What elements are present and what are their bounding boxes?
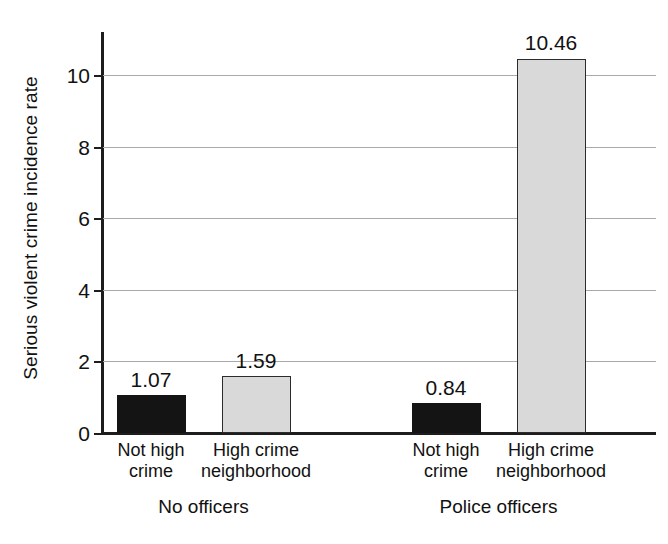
tick-mark	[94, 218, 103, 220]
x-axis-category-label: High crimeneighborhood	[201, 440, 311, 482]
category-label-line1: High crime	[201, 440, 311, 461]
category-label-line1: High crime	[496, 440, 606, 461]
x-axis-category-label: Not highcrime	[412, 440, 479, 482]
y-axis-title: Serious violent crime incidence rate	[14, 8, 48, 448]
plot-area: 02468101.071.590.8410.46	[103, 32, 656, 433]
x-axis-category-label: High crimeneighborhood	[496, 440, 606, 482]
bar-value-label: 1.07	[131, 369, 172, 390]
category-label-line2: neighborhood	[201, 461, 311, 482]
category-label-line1: Not high	[117, 440, 184, 461]
bar-chart: Serious violent crime incidence rate 024…	[0, 0, 668, 544]
x-axis-category-label: Not highcrime	[117, 440, 184, 482]
bar	[117, 395, 186, 433]
bar	[517, 59, 586, 434]
bar	[222, 376, 291, 433]
tick-mark	[94, 75, 103, 77]
bar-value-label: 1.59	[236, 350, 277, 371]
group-label: No officers	[158, 497, 248, 516]
y-axis-tick-label: 8	[78, 136, 90, 157]
category-label-line2: crime	[117, 461, 184, 482]
category-label-line1: Not high	[412, 440, 479, 461]
y-axis-tick-label: 4	[78, 279, 90, 300]
category-label-line2: neighborhood	[496, 461, 606, 482]
group-label: Police officers	[440, 497, 558, 516]
bar-value-label: 10.46	[525, 32, 578, 53]
bar-value-label: 0.84	[426, 377, 467, 398]
tick-mark	[94, 433, 103, 435]
y-axis-tick-label: 6	[78, 208, 90, 229]
bar	[412, 403, 481, 433]
tick-mark	[94, 290, 103, 292]
y-axis-tick-label: 2	[78, 351, 90, 372]
y-axis-tick-label: 10	[67, 64, 90, 85]
tick-mark	[94, 361, 103, 363]
tick-mark	[94, 147, 103, 149]
category-label-line2: crime	[412, 461, 479, 482]
y-axis-tick-label: 0	[78, 423, 90, 444]
